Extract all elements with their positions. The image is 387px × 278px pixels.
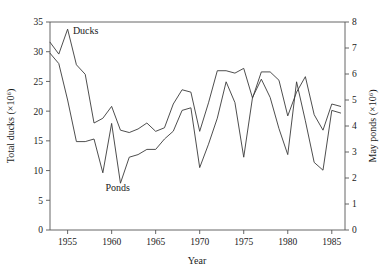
left-axis-title: Total ducks (×10⁶)	[5, 89, 17, 164]
bottom-tick-label: 1965	[146, 237, 165, 247]
right-axis-title: May ponds (×10⁶)	[367, 89, 379, 162]
chart-figure: 05101520253035 012345678 195519601965197…	[0, 0, 387, 278]
left-tick-label: 25	[34, 77, 44, 87]
bottom-tick-label: 1955	[58, 237, 77, 247]
right-tick-label: 1	[352, 199, 357, 209]
left-tick-label: 20	[34, 107, 44, 117]
bottom-tick-label: 1975	[234, 237, 253, 247]
right-tick-label: 0	[352, 225, 357, 235]
series-label-ponds: Ponds	[105, 182, 130, 193]
left-tick-label: 30	[34, 47, 44, 57]
right-tick-label: 5	[352, 95, 357, 105]
right-tick-label: 2	[352, 173, 357, 183]
bottom-axis-title: Year	[188, 255, 207, 266]
series-label-ducks: Ducks	[73, 25, 99, 36]
bottom-tick-label: 1970	[190, 237, 209, 247]
line-chart: 05101520253035 012345678 195519601965197…	[0, 0, 387, 278]
bottom-tick-label: 1980	[278, 237, 297, 247]
bottom-axis-ticks: 1955196019651970197519801985	[58, 230, 341, 247]
left-tick-label: 10	[34, 166, 44, 176]
right-tick-label: 8	[352, 17, 357, 27]
right-tick-label: 6	[352, 69, 357, 79]
left-tick-label: 35	[34, 17, 44, 27]
left-tick-label: 15	[34, 136, 44, 146]
right-tick-label: 4	[352, 121, 357, 131]
left-axis-ticks: 05101520253035	[34, 17, 51, 235]
right-tick-label: 7	[352, 43, 357, 53]
plot-frame	[50, 22, 345, 230]
bottom-tick-label: 1960	[102, 237, 121, 247]
right-tick-label: 3	[352, 147, 357, 157]
right-axis-ticks: 012345678	[345, 17, 357, 235]
bottom-tick-label: 1985	[322, 237, 341, 247]
left-tick-label: 5	[38, 196, 43, 206]
left-tick-label: 0	[38, 225, 43, 235]
series-line-ducks	[50, 29, 341, 132]
